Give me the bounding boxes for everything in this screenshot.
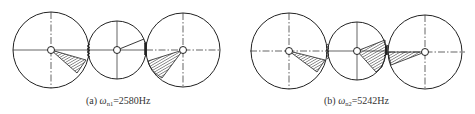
gear-left-b <box>250 13 328 89</box>
mode-shape-wedge <box>148 50 183 78</box>
mode-shape-wedge <box>289 51 325 72</box>
gear-right-b <box>388 15 465 89</box>
gear-middle-b <box>328 22 386 80</box>
caption-panel-a: (a) ωn1=2580Hz <box>86 95 150 107</box>
gear-vibration-mode-diagram <box>0 0 475 114</box>
caption-value: =5242Hz <box>352 95 389 106</box>
caption-prefix: (a) <box>86 95 100 106</box>
caption-value: =2580Hz <box>113 95 150 106</box>
panel-b-diagram <box>250 13 465 89</box>
caption-prefix: (b) <box>324 95 338 106</box>
mode-shape-wedge <box>388 52 425 65</box>
caption-panel-b: (b) ωn2=5242Hz <box>324 95 389 107</box>
caption-symbol: ω <box>100 95 107 106</box>
gear-right-a <box>146 13 220 87</box>
gear-middle-a <box>88 21 146 79</box>
gear-left-a <box>13 12 89 88</box>
mode-shape-wedge <box>357 40 386 72</box>
panel-a-diagram <box>13 12 220 88</box>
mode-shape-wedge <box>51 50 86 73</box>
